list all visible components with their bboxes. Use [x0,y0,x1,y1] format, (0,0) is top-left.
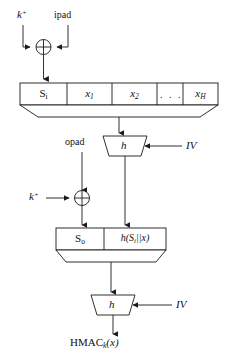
message-funnel [20,105,218,117]
key-top-label: k+ [17,9,27,20]
s-o-block-label: So [56,233,104,246]
hmac-diagram: k+ ipad Si x1 x2 . . . xH opad h IV k+ S… [0,0,238,361]
output-label: HMACk(x) [70,337,119,350]
key-top-superscript: + [22,9,27,16]
hash-bottom-label: h [109,299,115,310]
key-mid-superscript: + [34,191,39,198]
key-mid-label: k+ [29,191,39,202]
x1-block-label: x1 [67,88,112,101]
iv-top-label: IV [186,140,196,151]
hash-si-x-block-label: h(Si||x) [104,233,166,245]
s-i-block-label: Si [20,88,67,101]
diagram-canvas [0,0,238,361]
ellipsis-label: . . . [160,89,183,100]
hash-top-label: h [121,140,127,151]
opad-label: opad [65,137,84,147]
outer-funnel [56,250,166,262]
ipad-label: ipad [54,10,71,20]
xh-block-label: xH [183,88,218,101]
x2-block-label: x2 [112,88,157,101]
iv-bottom-label: IV [176,299,186,310]
